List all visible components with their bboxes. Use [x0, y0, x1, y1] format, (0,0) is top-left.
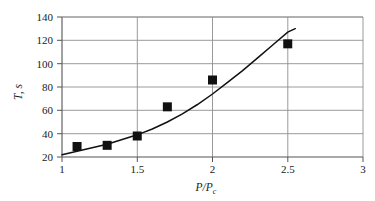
y-axis-title-text: T, s — [12, 84, 25, 100]
x-axis-title-main: P/P — [195, 181, 213, 193]
chart-background — [0, 0, 375, 201]
ytick-label-20: 20 — [42, 151, 54, 163]
x-axis-title-sub: c — [213, 187, 217, 196]
ytick-label-140: 140 — [37, 11, 54, 23]
ytick-label-60: 60 — [42, 104, 54, 116]
data-point-marker — [103, 141, 112, 150]
scatter-plot: 140 120 100 80 60 40 20 1 1.5 2 2.5 3 T,… — [0, 0, 375, 201]
xtick-label-2-5: 2.5 — [281, 163, 295, 175]
ytick-label-40: 40 — [42, 128, 54, 140]
xtick-label-1: 1 — [59, 163, 65, 175]
y-axis-title: T, s — [12, 84, 25, 100]
xtick-label-2: 2 — [210, 163, 216, 175]
ytick-label-80: 80 — [42, 81, 54, 93]
chart-figure: 140 120 100 80 60 40 20 1 1.5 2 2.5 3 T,… — [0, 0, 375, 201]
xtick-label-3: 3 — [360, 163, 366, 175]
xtick-label-1-5: 1.5 — [130, 163, 144, 175]
ytick-label-100: 100 — [37, 58, 54, 70]
data-point-marker — [133, 132, 142, 141]
data-point-marker — [283, 39, 292, 48]
ytick-label-120: 120 — [37, 34, 54, 46]
data-point-marker — [73, 142, 82, 151]
y-axis-title-rest: , s — [12, 84, 25, 95]
data-point-marker — [208, 76, 217, 85]
data-point-marker — [163, 102, 172, 111]
